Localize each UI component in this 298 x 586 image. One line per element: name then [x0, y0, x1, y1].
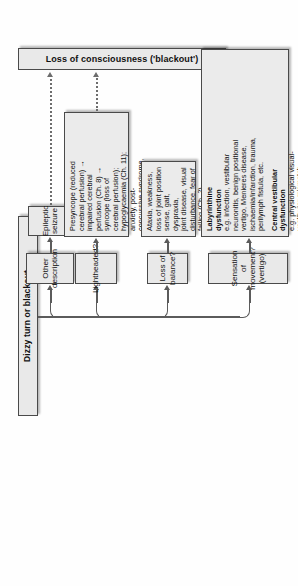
- balance-detail-text: Ataxia, weakness, loss of joint position…: [146, 166, 206, 231]
- labyrinthine-dysfunction-heading: Labyrinthine dysfunction: [206, 187, 223, 231]
- connector-elbow-vertigo: [200, 296, 250, 318]
- arrowhead-other-to-seizure: [47, 237, 53, 242]
- connector-line-vertigo: [249, 289, 251, 303]
- central-vestibular-dysfunction-body: e.g. physiological visual- vestibular mi…: [288, 129, 298, 231]
- arrowhead-seizure-to-outcome: [47, 72, 53, 77]
- outcome-node-label: Loss of consciousness ('blackout'): [46, 54, 199, 64]
- connector-other-to-seizure: [50, 241, 52, 253]
- dotted-connector-lightheaded-to-outcome: [96, 75, 98, 111]
- labyrinthine-dysfunction-body: e.g. infection, vestibular neuronitis, b…: [223, 137, 266, 231]
- dotted-connector-seizure-to-outcome: [50, 75, 52, 205]
- question-node-other-description[interactable]: Other description: [26, 253, 74, 284]
- question-node-sensation-of-movement[interactable]: Sensation of movement? (vertigo): [208, 253, 288, 284]
- connector-line-other: [50, 289, 52, 303]
- root-node-dizzy-turn-or-blackout[interactable]: Dizzy turn or blackout: [18, 216, 38, 416]
- detail-node-lightheaded[interactable]: Presyncope (reduced cerebral perfusion) …: [64, 112, 129, 237]
- outcome-node-loss-of-consciousness[interactable]: Loss of consciousness ('blackout'): [18, 48, 226, 70]
- connector-elbow-other: [50, 296, 64, 318]
- flowchart-canvas: Dizzy turn or blackout Other description…: [0, 0, 298, 586]
- arrowhead-vertigo-to-detail: [246, 238, 252, 243]
- arrowhead-balance: [164, 285, 170, 290]
- connector-lightheaded-to-detail: [96, 242, 98, 253]
- diagram-viewport: Dizzy turn or blackout Other description…: [0, 0, 298, 586]
- arrowhead-balance-to-detail: [164, 238, 170, 243]
- question-node-loss-of-balance[interactable]: Loss of balance?: [147, 253, 188, 284]
- detail-node-vertigo[interactable]: Labyrinthine dysfunction e.g. infection,…: [201, 49, 289, 237]
- detail-node-loss-of-balance[interactable]: Ataxia, weakness, loss of joint position…: [141, 161, 196, 237]
- trunk-stem: [38, 316, 50, 318]
- connector-vertigo-to-detail: [249, 242, 251, 253]
- question-node-lightheaded[interactable]: Lightheaded?: [75, 253, 117, 284]
- central-vestibular-dysfunction-heading: Central vestibular dysfunction: [271, 169, 288, 231]
- arrowhead-lightheaded-to-outcome: [93, 72, 99, 77]
- connector-line-balance: [167, 289, 169, 303]
- connector-elbow-balance: [140, 296, 168, 318]
- connector-balance-to-detail: [167, 242, 169, 253]
- arrowhead-lightheaded-to-detail: [93, 238, 99, 243]
